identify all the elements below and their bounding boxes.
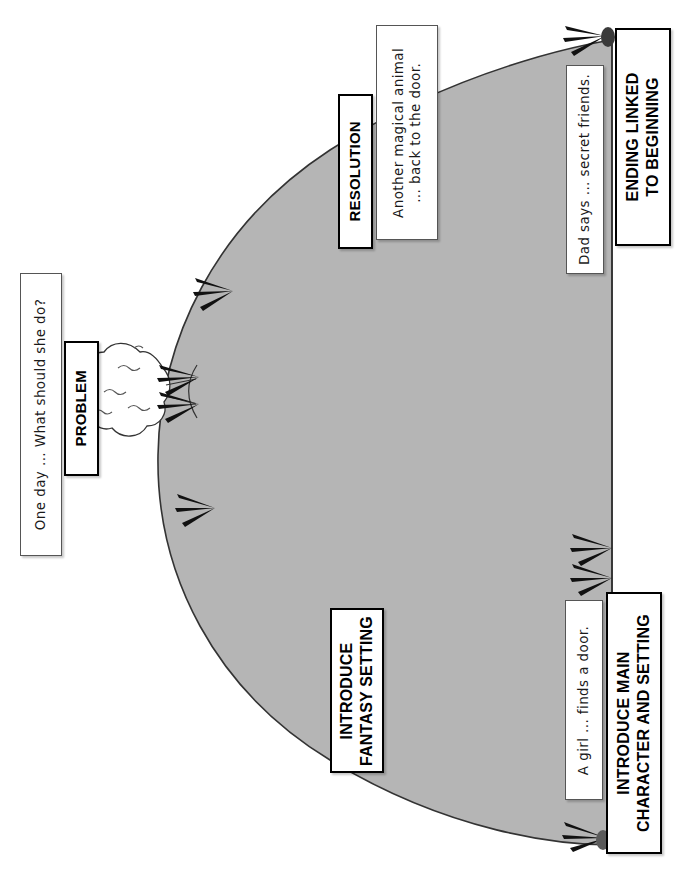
ending-note-box: Dad says ... secret friends.: [566, 65, 604, 274]
resolution-note-line2: ... back to the door.: [407, 47, 424, 217]
problem-note-text: One day ... What should she do?: [33, 299, 50, 530]
introduce-main-character-line1: INTRODUCE MAIN: [615, 651, 632, 794]
stage-label-introduce-fantasy-text: INTRODUCE FANTASY SETTING: [337, 616, 377, 766]
ending-note-text: Dad says ... secret friends.: [577, 74, 594, 265]
stage-label-resolution: RESOLUTION: [338, 94, 373, 249]
resolution-note-box: Another magical animal ... back to the d…: [376, 25, 438, 240]
opening-note-box: A girl ... finds a door.: [565, 600, 603, 800]
stage-label-introduce-main-character-text: INTRODUCE MAIN CHARACTER AND SETTING: [614, 614, 654, 832]
diagram-canvas: One day ... What should she do? PROBLEM …: [0, 0, 682, 876]
stage-label-ending-linked: ENDING LINKED TO BEGINNING: [615, 28, 671, 246]
introduce-main-character-line2: CHARACTER AND SETTING: [634, 614, 654, 832]
opening-note-text: A girl ... finds a door.: [576, 625, 593, 774]
problem-note-box: One day ... What should she do?: [20, 273, 62, 556]
resolution-note-text: Another magical animal ... back to the d…: [390, 47, 424, 217]
stage-label-resolution-text: RESOLUTION: [346, 121, 365, 221]
stage-label-problem-text: PROBLEM: [72, 370, 91, 446]
stage-label-ending-linked-text: ENDING LINKED TO BEGINNING: [623, 73, 663, 202]
stage-label-introduce-fantasy: INTRODUCE FANTASY SETTING: [330, 608, 384, 773]
stage-label-introduce-main-character: INTRODUCE MAIN CHARACTER AND SETTING: [606, 592, 662, 854]
ending-linked-line2: TO BEGINNING: [643, 73, 663, 202]
stage-label-problem: PROBLEM: [64, 341, 99, 476]
ending-linked-line1: ENDING LINKED: [624, 73, 641, 202]
introduce-fantasy-line2: FANTASY SETTING: [357, 616, 377, 766]
introduce-fantasy-line1: INTRODUCE: [338, 642, 355, 739]
resolution-note-line1: Another magical animal: [390, 47, 406, 217]
